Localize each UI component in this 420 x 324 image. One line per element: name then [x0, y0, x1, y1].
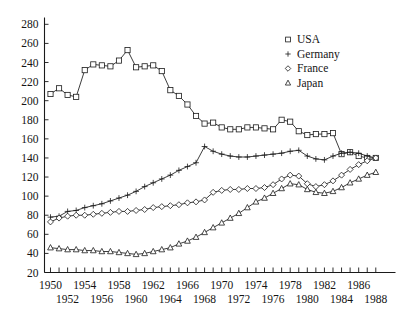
x-tick-label: 1960: [125, 293, 148, 305]
data-point-triangle: [227, 215, 233, 220]
data-point-square: [108, 64, 113, 69]
series-germany: [48, 144, 379, 220]
data-point-diamond: [176, 202, 182, 208]
x-tick-label: 1966: [176, 279, 199, 291]
data-point-square: [65, 92, 70, 97]
data-point-square: [296, 129, 301, 134]
data-point-plus: [142, 184, 148, 190]
x-tick-label: 1968: [193, 293, 216, 305]
series-line-germany: [50, 147, 375, 218]
data-point-triangle: [210, 225, 216, 230]
legend-item-usa[interactable]: USA: [286, 33, 321, 45]
data-point-diamond: [219, 187, 225, 193]
data-point-square: [74, 94, 79, 99]
x-tick-label: 1964: [159, 293, 182, 305]
y-tick-label: 60: [27, 228, 39, 240]
data-point-square: [99, 63, 104, 68]
data-point-diamond: [193, 199, 199, 205]
data-point-plus: [330, 153, 336, 159]
data-point-square: [262, 126, 267, 131]
y-tick-label: 180: [21, 114, 39, 126]
x-tick-label: 1986: [347, 279, 370, 291]
data-point-diamond: [279, 176, 285, 182]
data-point-diamond: [236, 186, 242, 192]
data-point-triangle: [339, 184, 345, 189]
data-point-diamond: [339, 172, 345, 178]
data-point-diamond: [65, 213, 71, 219]
y-tick-label: 220: [21, 76, 39, 88]
data-point-square: [305, 132, 310, 137]
legend-item-germany[interactable]: Germany: [285, 48, 340, 61]
data-point-plus: [116, 195, 122, 201]
data-point-square: [330, 131, 335, 136]
data-point-plus: [304, 153, 310, 159]
x-tick-label: 1958: [107, 279, 130, 291]
y-tick-label: 260: [21, 37, 39, 49]
data-point-diamond: [142, 207, 148, 213]
x-tick-label: 1976: [262, 293, 285, 305]
data-point-diamond: [159, 204, 165, 210]
x-tick-label: 1980: [296, 293, 319, 305]
y-tick-label: 20: [27, 267, 39, 279]
legend-item-japan[interactable]: Japan: [285, 77, 323, 90]
data-point-plus: [167, 172, 173, 178]
data-point-plus: [133, 188, 139, 194]
y-axis-ticks: [45, 24, 49, 272]
data-point-triangle: [270, 190, 276, 195]
x-tick-label: 1956: [90, 293, 113, 305]
axes-layer: [45, 18, 396, 273]
data-point-plus: [150, 180, 156, 186]
x-tick-label: 1954: [73, 279, 96, 291]
data-point-plus: [90, 203, 96, 209]
data-point-triangle: [90, 247, 96, 252]
data-point-triangle: [304, 186, 310, 191]
data-point-diamond: [99, 210, 105, 216]
data-point-triangle: [262, 195, 268, 200]
data-point-diamond: [347, 166, 353, 172]
data-point-triangle: [73, 246, 79, 251]
data-point-square: [253, 125, 258, 130]
data-point-triangle: [193, 234, 199, 239]
x-tick-label: 1982: [313, 279, 336, 291]
chart-canvas: 20406080100120140160180200220240260280 1…: [0, 0, 420, 324]
data-point-triangle: [108, 248, 114, 253]
data-point-plus: [313, 156, 319, 162]
data-point-square: [279, 117, 284, 122]
data-point-diamond: [356, 162, 362, 168]
x-tick-label: 1962: [142, 279, 165, 291]
data-point-plus: [108, 198, 114, 204]
data-point-plus: [99, 201, 105, 207]
y-tick-label: 140: [21, 152, 39, 164]
legend-label: Germany: [297, 48, 340, 61]
data-point-square: [91, 62, 96, 67]
series-usa: [48, 47, 379, 160]
data-point-plus: [322, 157, 328, 163]
x-tick-label: 1952: [56, 293, 79, 305]
data-point-diamond: [167, 203, 173, 209]
data-point-diamond: [90, 211, 96, 217]
data-point-square: [82, 68, 87, 73]
data-point-diamond: [227, 186, 233, 192]
legend-item-france[interactable]: France: [285, 62, 328, 74]
x-tick-label: 1974: [244, 279, 267, 291]
data-point-plus: [262, 152, 268, 158]
y-tick-label: 120: [21, 171, 39, 183]
data-point-plus: [193, 160, 199, 166]
data-point-square: [313, 131, 318, 136]
data-point-square: [142, 64, 147, 69]
data-point-plus: [236, 154, 242, 160]
legend-label: Japan: [297, 77, 323, 90]
data-point-triangle: [48, 245, 54, 250]
data-point-square: [228, 127, 233, 132]
data-point-plus: [185, 164, 191, 170]
data-point-diamond: [116, 208, 122, 214]
y-tick-label: 280: [21, 18, 39, 30]
data-point-triangle: [236, 210, 242, 215]
data-point-diamond: [244, 186, 250, 192]
data-point-square: [270, 127, 275, 132]
data-point-diamond: [47, 219, 53, 225]
data-point-plus: [227, 153, 233, 159]
x-tick-label: 1950: [39, 279, 62, 291]
data-point-square: [211, 120, 216, 125]
data-point-triangle: [245, 204, 251, 209]
